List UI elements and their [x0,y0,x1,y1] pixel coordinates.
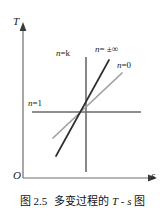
figure-container: T O s n=k n= ±∞ n=0 n=1 图 2.5多变过程的 T - s… [0,0,165,224]
curve-label-n-one-rest: =1 [33,98,43,108]
curve-label-n-infinity-rest: = ±∞ [100,44,119,54]
figure-caption-ts: T - s [112,195,131,207]
curve-label-n-zero-rest: =0 [122,60,132,70]
curve-label-n-k: n=k [56,49,70,58]
curve-label-n-zero: n=0 [117,61,131,70]
y-axis-arrow-icon [20,22,27,31]
origin-label: O [13,170,21,181]
figure-caption-text-after: 图 [134,195,145,207]
curve-n-infinity [56,60,109,156]
figure-caption-text-before: 多变过程的 [54,195,109,207]
x-axis-label: s [151,170,155,181]
plot-area: T O s n=k n= ±∞ n=0 n=1 [0,0,165,190]
curve-label-n-k-rest: =k [61,48,71,58]
y-axis-label: T [13,16,19,27]
figure-caption-number: 图 2.5 [20,195,48,207]
curve-n-zero [53,73,122,138]
curve-label-n-infinity: n= ±∞ [95,45,118,54]
curve-label-n-one: n=1 [28,99,42,108]
polytropic-ts-diagram [0,0,165,190]
figure-caption: 图 2.5多变过程的 T - s 图 [0,195,165,208]
